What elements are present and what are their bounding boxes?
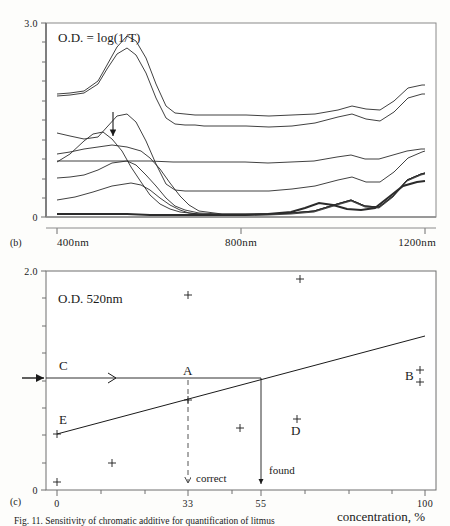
label-point-E: E	[59, 412, 67, 427]
label-point-D: D	[291, 423, 300, 438]
found-label: found	[269, 464, 295, 476]
panel-b-x-label-400: 400nm	[57, 236, 89, 248]
label-point-B: B	[405, 368, 414, 383]
label-point-C: C	[59, 358, 68, 373]
panel-c-x-label-55: 55	[256, 498, 267, 509]
panel-b-y-top-label: 3.0	[24, 18, 38, 29]
panel-c: 2.0 0 0 33 55 100 concentration, % (c) O…	[10, 266, 436, 524]
panel-b-od-annotation: O.D. = log(1/T)	[58, 30, 140, 45]
figure-caption: Fig. 11. Sensitivity of chromatic additi…	[14, 516, 275, 526]
panel-c-y-zero-label: 0	[33, 485, 38, 496]
panel-c-x-ticks	[57, 490, 425, 496]
panel-c-y-ticks	[41, 271, 46, 490]
panel-c-x-label-33: 33	[183, 498, 194, 509]
panel-b-x-label-1200: 1200nm	[398, 236, 436, 248]
correct-label: correct	[196, 472, 227, 484]
figure-svg: 3.0 0 400nm 800nm 1200nm O.D. = log(1/T)…	[0, 0, 450, 526]
panel-b-letter: (b)	[10, 237, 22, 249]
panel-c-y-top-label: 2.0	[24, 266, 38, 277]
panel-c-x-label-0: 0	[54, 498, 59, 509]
panel-c-letter: (c)	[10, 496, 21, 508]
label-point-A: A	[183, 363, 193, 378]
panel-b-x-label-800: 800nm	[225, 236, 257, 248]
panel-b: 3.0 0 400nm 800nm 1200nm O.D. = log(1/T)…	[10, 18, 436, 249]
panel-b-y-zero-label: 0	[33, 212, 38, 223]
panel-c-od-annotation: O.D. 520nm	[58, 291, 123, 306]
panel-c-x-label-100: 100	[417, 498, 433, 509]
panel-c-x-axis-title: concentration, %	[337, 509, 425, 524]
panel-b-x-ticks	[57, 228, 425, 234]
figure-container: 3.0 0 400nm 800nm 1200nm O.D. = log(1/T)…	[0, 0, 450, 526]
